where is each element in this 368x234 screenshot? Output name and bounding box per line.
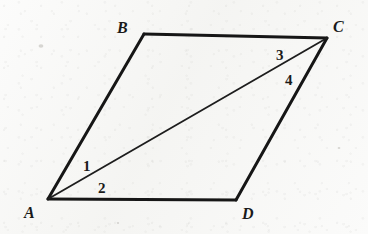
vertex-label-a: A bbox=[23, 204, 35, 221]
paper-speck bbox=[338, 147, 341, 149]
side-ab bbox=[48, 34, 144, 199]
angle-label-4: 4 bbox=[285, 72, 293, 88]
paper-speck bbox=[117, 222, 119, 224]
diagonal-ac bbox=[48, 38, 327, 199]
vertex-label-d: D bbox=[241, 205, 254, 222]
side-da bbox=[48, 199, 236, 200]
angle-label-3: 3 bbox=[276, 47, 284, 63]
parallelogram-diagram: Parallelogram ABCD with diagonal AC A B … bbox=[0, 0, 368, 234]
angle-label-1: 1 bbox=[83, 158, 91, 174]
geometry-figure-canvas: Parallelogram ABCD with diagonal AC A B … bbox=[0, 0, 368, 234]
paper-speck bbox=[39, 44, 44, 48]
vertex-label-c: C bbox=[333, 18, 344, 35]
paper-speck-group bbox=[39, 44, 341, 224]
side-bc bbox=[144, 34, 327, 38]
vertex-label-b: B bbox=[116, 19, 128, 36]
angle-label-group: 1 2 3 4 bbox=[83, 47, 293, 196]
angle-label-2: 2 bbox=[98, 180, 106, 196]
